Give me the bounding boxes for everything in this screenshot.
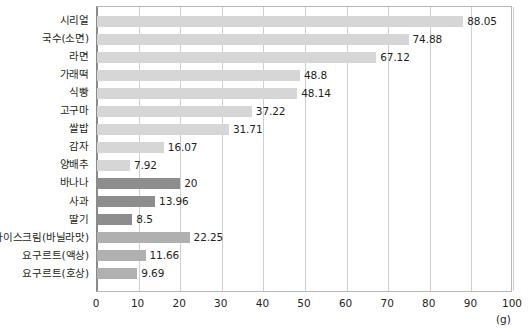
bar — [97, 70, 300, 81]
bar-value-label: 8.5 — [136, 214, 152, 225]
bar-row: 7.92 — [97, 156, 511, 174]
category-label: 요구르트(액상) — [22, 246, 89, 264]
category-label: 바나나 — [60, 173, 89, 191]
bar — [97, 250, 146, 261]
bar-row: 8.5 — [97, 211, 511, 229]
bar — [97, 52, 376, 63]
bar-value-label: 11.66 — [150, 250, 180, 261]
category-label: 국수(소면) — [42, 29, 89, 47]
x-tick-label-0: 0 — [93, 296, 100, 310]
bar-value-label: 74.88 — [413, 34, 443, 45]
value-axis-ticks: 0102030405060708090100 — [96, 296, 512, 310]
category-label: 사과 — [69, 191, 89, 209]
category-label: 양배추 — [60, 155, 89, 173]
x-tick-label-90: 90 — [464, 296, 477, 310]
unit-label: (g) — [496, 313, 511, 326]
x-tick-label-70: 70 — [381, 296, 394, 310]
category-label: 라면 — [69, 47, 89, 65]
bar-row: 67.12 — [97, 48, 511, 66]
category-label: 쌀밥 — [69, 119, 89, 137]
bar-value-label: 22.25 — [194, 232, 224, 243]
gridline-100 — [513, 7, 514, 291]
bar-value-label: 67.12 — [380, 52, 410, 63]
x-tick-label-20: 20 — [173, 296, 186, 310]
bar — [97, 160, 130, 171]
bar-value-label: 9.69 — [141, 268, 164, 279]
bar-value-label: 48.14 — [301, 88, 331, 99]
bar-value-label: 20 — [184, 178, 197, 189]
category-label: 요구르트(호상) — [22, 264, 89, 282]
bar-row: 9.69 — [97, 265, 511, 283]
bar — [97, 88, 297, 99]
x-tick-label-60: 60 — [339, 296, 352, 310]
bar-row: 16.07 — [97, 138, 511, 156]
bar-value-label: 16.07 — [168, 142, 198, 153]
bar-value-label: 48.8 — [304, 70, 327, 81]
bar-row: 13.96 — [97, 192, 511, 210]
bar — [97, 232, 190, 243]
bar-value-label: 88.05 — [467, 16, 497, 27]
x-tick-label-50: 50 — [297, 296, 310, 310]
bar — [97, 178, 180, 189]
x-tick-label-80: 80 — [422, 296, 435, 310]
bar — [97, 124, 229, 135]
category-axis-labels: 시리얼국수(소면)라면가래떡식빵고구마쌀밥감자양배추바나나사과딸기아이스크림(바… — [0, 6, 93, 292]
category-label: 딸기 — [69, 210, 89, 228]
bar-value-label: 13.96 — [159, 196, 189, 207]
bar-row: 20 — [97, 174, 511, 192]
bar — [97, 196, 155, 207]
bar-row: 48.8 — [97, 66, 511, 84]
bar-row: 22.25 — [97, 229, 511, 247]
bar — [97, 34, 409, 45]
category-label: 감자 — [69, 137, 89, 155]
bar-row: 37.22 — [97, 102, 511, 120]
category-label: 아이스크림(바닐라맛) — [0, 228, 89, 246]
category-label: 시리얼 — [60, 11, 89, 29]
category-label: 고구마 — [60, 101, 89, 119]
plot-area: 88.0574.8867.1248.848.1437.2231.7116.077… — [96, 6, 512, 292]
bar-row: 74.88 — [97, 30, 511, 48]
x-tick-label-10: 10 — [131, 296, 144, 310]
bar-rows: 88.0574.8867.1248.848.1437.2231.7116.077… — [97, 7, 511, 291]
bar-row: 31.71 — [97, 120, 511, 138]
bar-chart: 시리얼국수(소면)라면가래떡식빵고구마쌀밥감자양배추바나나사과딸기아이스크림(바… — [0, 0, 528, 333]
bar-row: 11.66 — [97, 247, 511, 265]
bar-row: 88.05 — [97, 12, 511, 30]
category-label: 식빵 — [69, 83, 89, 101]
bar-value-label: 31.71 — [233, 124, 263, 135]
bar — [97, 16, 463, 27]
bar-value-label: 7.92 — [134, 160, 157, 171]
bar — [97, 142, 164, 153]
x-tick-label-40: 40 — [256, 296, 269, 310]
bar-value-label: 37.22 — [256, 106, 286, 117]
bar — [97, 268, 137, 279]
bar — [97, 106, 252, 117]
x-tick-label-30: 30 — [214, 296, 227, 310]
x-tick-label-100: 100 — [502, 296, 522, 310]
bar-row: 48.14 — [97, 84, 511, 102]
bar — [97, 214, 132, 225]
category-label: 가래떡 — [60, 65, 89, 83]
